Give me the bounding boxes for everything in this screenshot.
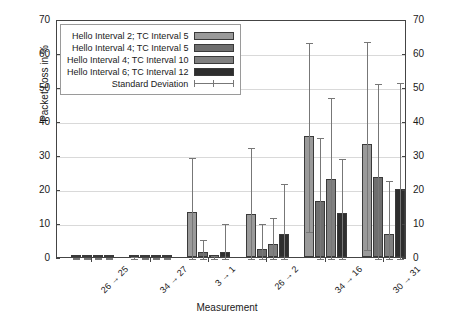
error-bar	[203, 240, 204, 259]
y-tick-label-right: 0	[413, 253, 437, 263]
y-tick-label-right: 50	[413, 83, 437, 93]
error-bar-cap	[211, 256, 218, 257]
y-tick-mark-right	[402, 88, 406, 89]
error-bar-cap	[397, 83, 404, 84]
y-tick-label-right: 10	[413, 219, 437, 229]
y-tick-mark-left	[56, 20, 60, 21]
error-bar-cap	[270, 218, 277, 219]
bar	[104, 255, 114, 257]
y-tick-label-left: 30	[26, 151, 50, 161]
y-tick-label-left: 50	[26, 83, 50, 93]
bar	[151, 255, 161, 257]
error-bar-cap	[306, 43, 313, 44]
x-tick-mark	[383, 258, 384, 262]
error-bar-cap	[259, 224, 266, 225]
error-bar-cap	[306, 232, 313, 233]
error-bar-cap	[259, 259, 266, 260]
legend-label: Hello Interval 2; TC Interval 5	[72, 31, 188, 41]
x-tick-mark	[208, 258, 209, 262]
legend-errorbar-cap	[194, 80, 195, 87]
x-tick-label: 3 → 1	[213, 264, 237, 288]
legend-errorbar-line	[194, 83, 234, 84]
error-bar-cap	[328, 259, 335, 260]
y-tick-label-right: 40	[413, 117, 437, 127]
y-tick-mark-left	[56, 156, 60, 157]
y-tick-label-left: 10	[26, 219, 50, 229]
gridline	[57, 191, 405, 192]
error-bar-cap	[222, 259, 229, 260]
chart-legend: Hello Interval 2; TC Interval 5Hello Int…	[60, 24, 241, 95]
error-bar-cap	[189, 158, 196, 159]
error-bar	[251, 148, 252, 259]
x-tick-mark	[325, 258, 326, 262]
error-bar-cap	[211, 259, 218, 260]
error-bar-cap	[281, 184, 288, 185]
error-bar-cap	[328, 98, 335, 99]
error-bar-cap	[339, 159, 346, 160]
error-bar	[320, 138, 321, 259]
error-bar	[284, 184, 285, 259]
error-bar-cap	[364, 250, 371, 251]
y-tick-mark-right	[402, 190, 406, 191]
error-bar-cap	[248, 259, 255, 260]
y-tick-mark-right	[402, 156, 406, 157]
legend-item: Hello Interval 6; TC Interval 12	[67, 66, 234, 77]
error-bar	[192, 158, 193, 259]
gridline	[57, 157, 405, 158]
error-bar-cap	[317, 259, 324, 260]
error-bar-cap	[142, 259, 149, 260]
y-tick-mark-right	[402, 224, 406, 225]
error-bar-cap	[84, 259, 91, 260]
x-tick-label: 26 → 2	[273, 264, 301, 292]
error-bar	[262, 224, 263, 259]
x-tick-label: 34 → 27	[157, 264, 188, 295]
legend-swatch	[194, 32, 234, 40]
error-bar-cap	[131, 259, 138, 260]
y-tick-mark-left	[56, 258, 60, 259]
gridline	[57, 123, 405, 124]
error-bar-cap	[386, 181, 393, 182]
y-tick-label-right: 20	[413, 185, 437, 195]
legend-item: Standard Deviation	[67, 78, 234, 89]
y-tick-label-left: 40	[26, 117, 50, 127]
error-bar-cap	[386, 259, 393, 260]
error-bar	[367, 42, 368, 249]
bar	[162, 255, 172, 257]
y-tick-mark-right	[402, 122, 406, 123]
y-tick-mark-right	[402, 20, 406, 21]
x-tick-label: 26 → 25	[99, 264, 130, 295]
legend-errorbar-sample	[194, 80, 234, 88]
error-bar-cap	[200, 240, 207, 241]
error-bar-cap	[397, 259, 404, 260]
error-bar	[309, 43, 310, 232]
error-bar-cap	[248, 148, 255, 149]
error-bar	[378, 84, 379, 259]
error-bar-cap	[281, 259, 288, 260]
x-tick-label: 34 → 16	[332, 264, 363, 295]
legend-label: Standard Deviation	[112, 79, 189, 89]
y-tick-mark-right	[402, 258, 406, 259]
gridline	[57, 225, 405, 226]
error-bar	[273, 218, 274, 259]
y-tick-mark-left	[56, 224, 60, 225]
error-bar-cap	[106, 259, 113, 260]
legend-label: Hello Interval 6; TC Interval 12	[67, 67, 188, 77]
legend-item: Hello Interval 2; TC Interval 5	[67, 30, 234, 41]
y-tick-label-left: 70	[26, 15, 50, 25]
y-tick-mark-left	[56, 122, 60, 123]
error-bar	[225, 224, 226, 259]
error-bar-cap	[270, 259, 277, 260]
legend-item: Hello Interval 4; TC Interval 5	[67, 42, 234, 53]
error-bar-cap	[73, 259, 80, 260]
error-bar-cap	[317, 138, 324, 139]
legend-item: Hello Interval 4; TC Interval 10	[67, 54, 234, 65]
error-bar-cap	[375, 84, 382, 85]
x-axis-title: Measurement	[0, 302, 454, 313]
error-bar	[331, 98, 332, 259]
bar	[140, 255, 150, 257]
x-tick-label: 30 → 31	[391, 264, 422, 295]
error-bar-cap	[222, 224, 229, 225]
y-tick-label-left: 60	[26, 49, 50, 59]
y-tick-label-right: 60	[413, 49, 437, 59]
error-bar-cap	[200, 259, 207, 260]
